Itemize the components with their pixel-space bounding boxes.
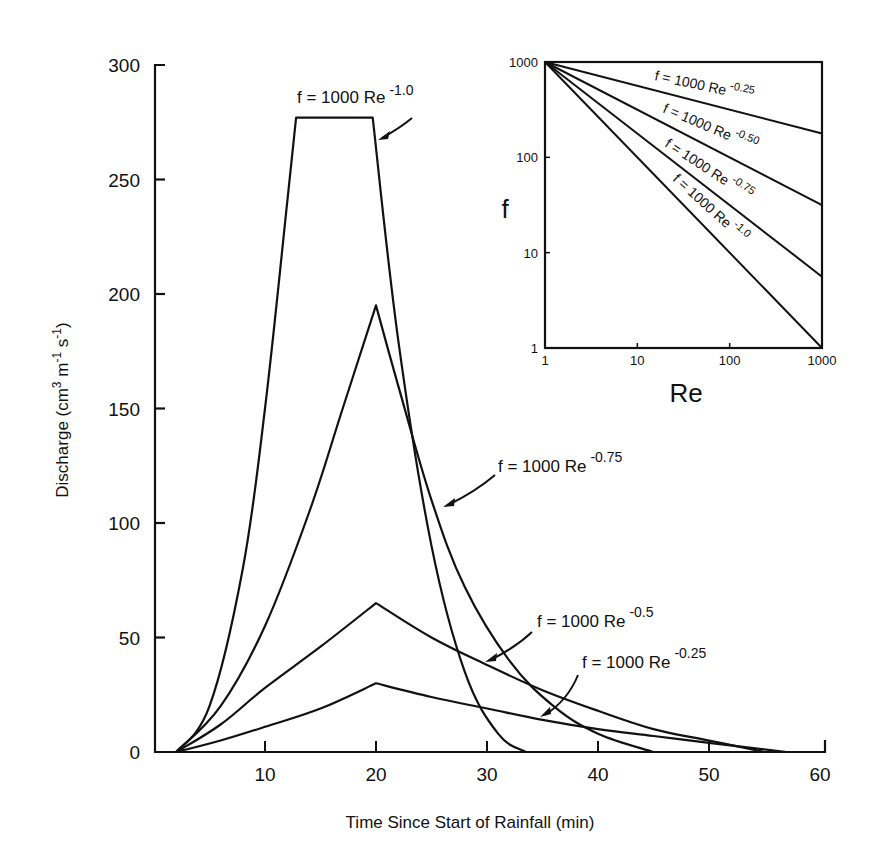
y-ticks: 050100150200250300: [108, 55, 165, 763]
arrowhead-icon: [378, 131, 390, 140]
discharge-curve: [176, 683, 787, 752]
discharge-curve: [176, 118, 526, 752]
svg-text:f = 1000 Re-0.25: f = 1000 Re-0.25: [582, 645, 706, 672]
x-axis-title: Time Since Start of Rainfall (min): [346, 813, 595, 832]
annotation-re-0.75: f = 1000 Re-0.75: [443, 449, 622, 507]
inset-y-tick-label: 1: [531, 341, 538, 356]
y-tick-label: 150: [108, 399, 140, 420]
inset-label-0.25: f = 1000 Re-0.25: [653, 63, 756, 104]
arrowhead-icon: [443, 498, 455, 507]
x-tick-label: 50: [698, 764, 719, 785]
inset-x-tick-label: 100: [719, 353, 741, 368]
main-axes: 050100150200250300 102030405060: [108, 55, 830, 785]
inset-x-title: Re: [669, 378, 702, 408]
inset-x-tick-label: 10: [630, 353, 644, 368]
y-tick-label: 50: [119, 628, 140, 649]
y-axis-title: Discharge (cm3 m-1 s-1): [50, 322, 72, 497]
annotation-re-0.25: f = 1000 Re-0.25: [540, 645, 706, 717]
arrowhead-icon: [540, 707, 551, 717]
discharge-curve: [176, 305, 653, 752]
x-tick-label: 20: [365, 764, 386, 785]
y-tick-label: 250: [108, 170, 140, 191]
discharge-chart: 050100150200250300 102030405060 Time Sin…: [0, 0, 880, 846]
inset-curves: [545, 62, 822, 348]
svg-text:f = 1000 Re-0.5: f = 1000 Re-0.5: [537, 604, 654, 631]
y-tick-label: 300: [108, 55, 140, 76]
svg-text:f = 1000 Re-1.0: f = 1000 Re-1.0: [297, 82, 414, 107]
x-tick-label: 40: [587, 764, 608, 785]
y-tick-label: 100: [108, 513, 140, 534]
inset-label-0.75: f = 1000 Re-0.75: [662, 132, 757, 204]
x-tick-label: 10: [254, 764, 275, 785]
inset-line: [545, 62, 822, 277]
arrowhead-icon: [485, 653, 497, 662]
inset-x-tick-label: 1: [541, 353, 548, 368]
svg-text:f = 1000 Re-0.75: f = 1000 Re-0.75: [498, 449, 622, 476]
y-tick-label: 0: [129, 742, 140, 763]
inset-y-tick-label: 1000: [509, 55, 538, 70]
inset-line: [545, 62, 822, 348]
inset-y-tick-label: 100: [516, 150, 538, 165]
inset-x-tick-label: 1000: [808, 353, 837, 368]
x-tick-label: 30: [476, 764, 497, 785]
y-tick-label: 200: [108, 284, 140, 305]
inset-y-tick-label: 10: [524, 246, 538, 261]
arrow-icon: [448, 475, 495, 505]
inset-chart: 11010010001101001000 f Re f = 1000 Re-0.…: [501, 55, 836, 408]
x-tick-label: 60: [809, 764, 830, 785]
y-axis: [155, 65, 825, 752]
annotation-re-1.0: f = 1000 Re-1.0: [297, 82, 414, 140]
inset-y-title: f: [501, 194, 509, 224]
